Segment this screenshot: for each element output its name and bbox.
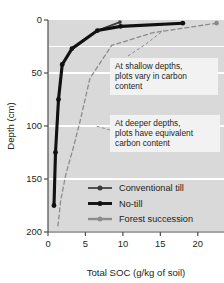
legend-label: Forest succession	[119, 214, 193, 224]
legend-swatch-marker	[98, 186, 103, 191]
legend-label: No-till	[119, 199, 142, 209]
x-tick-label: 0	[45, 238, 50, 249]
y-tick-label: 0	[37, 14, 42, 25]
annotation-deep-depths: At deeper depths, plots have equivalent …	[110, 115, 220, 152]
y-tick-label: 150	[26, 173, 42, 184]
legend-swatch-marker	[98, 201, 103, 206]
data-point	[180, 21, 185, 26]
y-tick-label: 200	[26, 226, 42, 237]
annotation-deep-line-1: At deeper depths,	[115, 118, 216, 128]
soil-carbon-depth-chart: 050100150200 05101520 Conventional tillN…	[0, 0, 224, 283]
y-axis-ticks: 050100150200	[26, 14, 48, 237]
annotation-shallow-depths: At shallow depths, plots vary in carbon …	[110, 58, 218, 95]
data-point	[214, 21, 219, 26]
x-tick-label: 15	[155, 238, 165, 249]
legend-label: Conventional till	[119, 183, 184, 193]
annotation-shallow-line-2: plots vary in carbon	[115, 71, 214, 81]
annotation-deep-line-2: plots have equivalent	[115, 128, 216, 138]
data-point	[56, 97, 61, 102]
x-axis-title: Total SOC (g/kg of soil)	[87, 267, 186, 278]
data-point	[53, 150, 58, 155]
y-tick-label: 100	[26, 120, 42, 131]
data-point	[60, 62, 65, 67]
x-tick-label: 10	[118, 238, 128, 249]
x-tick-label: 20	[193, 238, 203, 249]
annotation-shallow-line-3: content	[115, 81, 214, 91]
x-tick-label: 5	[83, 238, 88, 249]
legend-swatch-marker	[98, 217, 103, 222]
data-point	[118, 20, 122, 24]
data-point	[118, 24, 123, 29]
y-tick-label: 50	[32, 67, 42, 78]
data-point	[70, 46, 75, 51]
data-point	[52, 203, 57, 208]
annotation-deep-line-3: carbon content	[115, 138, 216, 148]
x-axis-ticks: 05101520	[45, 232, 203, 249]
y-axis-title: Depth (cm)	[5, 102, 16, 149]
data-point	[95, 28, 100, 33]
annotation-shallow-line-1: At shallow depths,	[115, 61, 214, 71]
